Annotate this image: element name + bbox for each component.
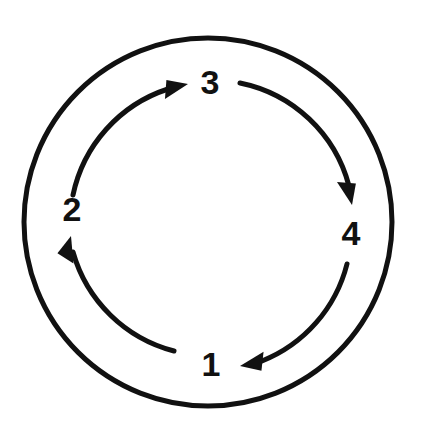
node-label-2: 2 xyxy=(63,190,82,228)
cycle-diagram-svg: 1 2 3 4 xyxy=(0,0,422,439)
arrow-4-to-1-shaft xyxy=(262,264,347,361)
arrowhead-into-3-icon xyxy=(161,75,191,99)
node-label-3: 3 xyxy=(201,63,220,101)
node-label-4: 4 xyxy=(342,214,361,252)
cycle-diagram-canvas: 1 2 3 4 xyxy=(0,0,422,439)
arrow-1-to-2 xyxy=(56,234,174,351)
arrow-3-to-4-shaft xyxy=(240,83,349,186)
arrow-2-to-3-shaft xyxy=(73,89,168,195)
arrow-2-to-3 xyxy=(73,75,190,195)
arrow-3-to-4 xyxy=(240,83,361,207)
arrow-1-to-2-shaft xyxy=(73,252,174,351)
node-label-1: 1 xyxy=(202,345,221,383)
